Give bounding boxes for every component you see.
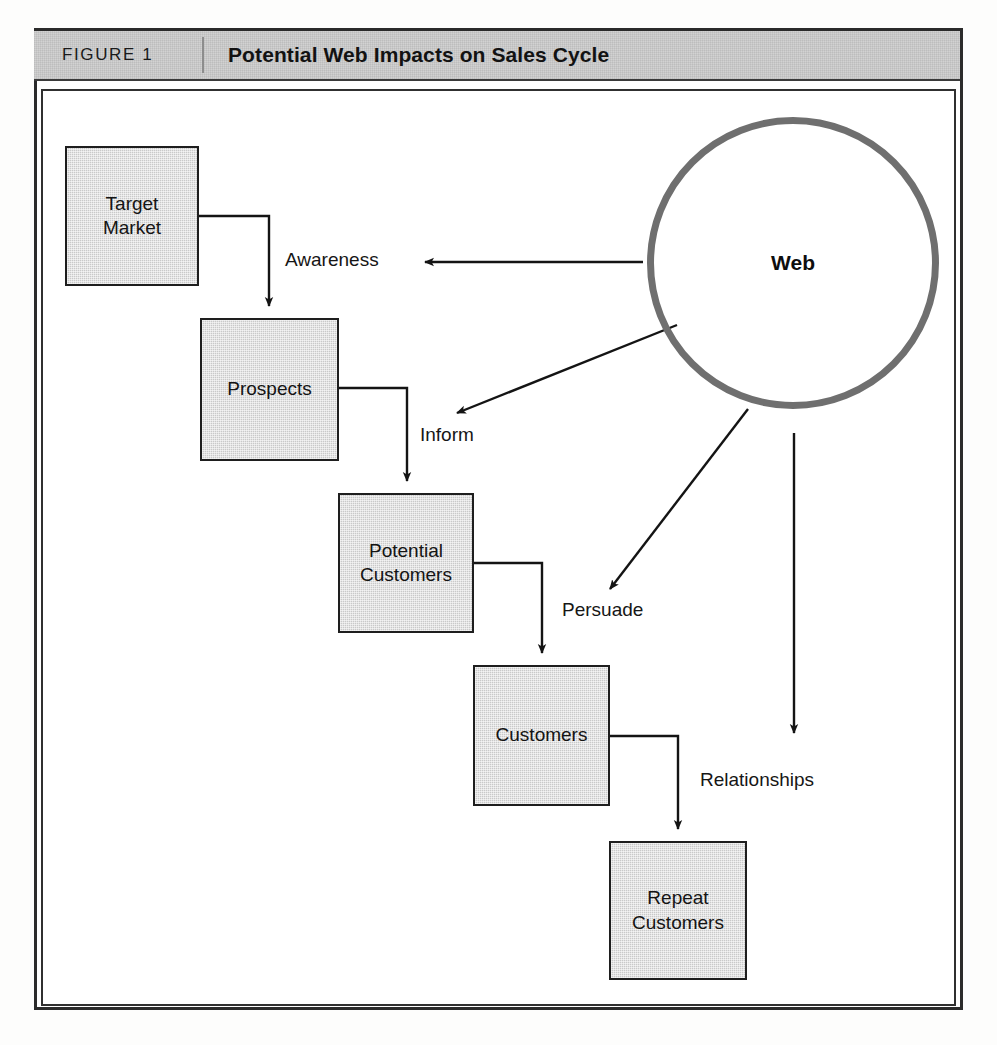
figure-number-label: FIGURE 1 <box>34 45 202 65</box>
node-target-market[interactable]: Target Market <box>65 146 199 286</box>
node-customers[interactable]: Customers <box>473 665 610 806</box>
edge-target-to-prospects <box>199 216 269 306</box>
node-web[interactable]: Web <box>647 117 939 409</box>
edge-label-inform: Inform <box>420 424 474 446</box>
edge-label-persuade: Persuade <box>562 599 643 621</box>
node-repeat-customers-line2: Customers <box>632 911 724 935</box>
edge-prospects-to-potential <box>339 388 407 481</box>
edge-label-relationships: Relationships <box>700 769 814 791</box>
edge-label-awareness: Awareness <box>285 249 379 271</box>
node-potential-customers-line1: Potential <box>360 539 452 563</box>
node-potential-customers-line2: Customers <box>360 563 452 587</box>
node-repeat-customers-line1: Repeat <box>632 886 724 910</box>
node-target-market-line1: Target <box>103 192 161 216</box>
diagram-canvas: Target Market Prospects Potential Custom… <box>41 89 956 1006</box>
scan-page: FIGURE 1 Potential Web Impacts on Sales … <box>0 0 997 1045</box>
edge-inform <box>457 325 677 413</box>
edge-customers-to-repeat <box>610 736 678 829</box>
node-repeat-customers[interactable]: Repeat Customers <box>609 841 747 980</box>
figure-header: FIGURE 1 Potential Web Impacts on Sales … <box>34 31 960 81</box>
node-prospects-line1: Prospects <box>227 377 311 401</box>
node-customers-line1: Customers <box>496 723 588 747</box>
edge-potential-to-customers <box>474 563 542 653</box>
node-web-label: Web <box>771 251 815 275</box>
node-prospects[interactable]: Prospects <box>200 318 339 461</box>
figure-title: Potential Web Impacts on Sales Cycle <box>204 43 609 67</box>
node-target-market-line2: Market <box>103 216 161 240</box>
node-potential-customers[interactable]: Potential Customers <box>338 493 474 633</box>
edge-persuade <box>610 409 748 589</box>
